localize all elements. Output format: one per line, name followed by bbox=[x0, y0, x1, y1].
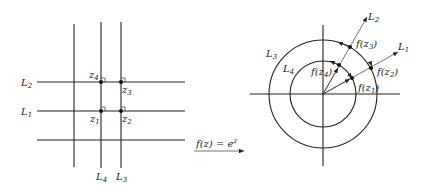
point-f-z2 bbox=[369, 66, 373, 70]
label-z4: z4 bbox=[88, 69, 99, 82]
point-f-z3 bbox=[348, 45, 352, 49]
tangent-arrow-f2 bbox=[370, 62, 372, 66]
label-L1: L1 bbox=[20, 106, 32, 119]
label-f-z4: f(z4) bbox=[310, 66, 332, 79]
label-L4-circle: L4 bbox=[282, 63, 294, 76]
point-f-z1 bbox=[350, 76, 354, 80]
z-plane: L2 L1 L4 L3 z4 z3 z1 z2 bbox=[20, 22, 185, 184]
w-plane: L3 L4 L2 L1 f(z4) f(z3) f(z2) f(z1) bbox=[250, 11, 409, 166]
label-L4: L4 bbox=[95, 171, 107, 184]
label-L1-ray: L1 bbox=[397, 41, 409, 54]
mapping-arrow: f(z) = ez bbox=[194, 137, 244, 151]
label-L2: L2 bbox=[20, 77, 33, 90]
point-z1 bbox=[99, 109, 103, 113]
diagram-canvas: L2 L1 L4 L3 z4 z3 z1 z2 f(z) = ez bbox=[0, 0, 427, 186]
label-z1: z1 bbox=[89, 113, 100, 126]
label-L2-ray: L2 bbox=[367, 11, 380, 24]
mapping-label: f(z) = ez bbox=[195, 137, 237, 149]
label-L3: L3 bbox=[115, 171, 128, 184]
label-z3: z3 bbox=[121, 84, 132, 97]
label-z2: z2 bbox=[121, 113, 132, 126]
label-f-z3: f(z3) bbox=[355, 38, 377, 51]
point-f-z4 bbox=[337, 63, 341, 67]
label-L3-circle: L3 bbox=[265, 48, 278, 61]
label-f-z2: f(z2) bbox=[376, 66, 398, 79]
tangent-arrow-f3 bbox=[338, 42, 349, 47]
point-z4 bbox=[99, 80, 103, 84]
label-f-z1: f(z1) bbox=[357, 82, 379, 95]
